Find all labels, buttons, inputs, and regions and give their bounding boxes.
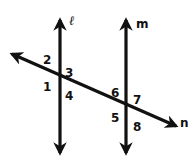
angle-1-label: 1 (43, 80, 51, 94)
angle-7-label: 7 (133, 93, 141, 107)
line-n-label: n (180, 116, 189, 130)
angle-6-label: 6 (111, 86, 119, 100)
transversal-n (12, 54, 176, 126)
angle-4-label: 4 (65, 89, 73, 103)
parallel-lines-diagram: ℓ m n 2 3 1 4 6 7 5 8 (0, 0, 193, 166)
line-m-label: m (136, 17, 149, 31)
line-l-label: ℓ (69, 13, 75, 28)
angle-3-label: 3 (65, 66, 73, 80)
angle-8-label: 8 (133, 120, 141, 134)
angle-2-label: 2 (43, 53, 51, 67)
angle-5-label: 5 (111, 111, 119, 125)
